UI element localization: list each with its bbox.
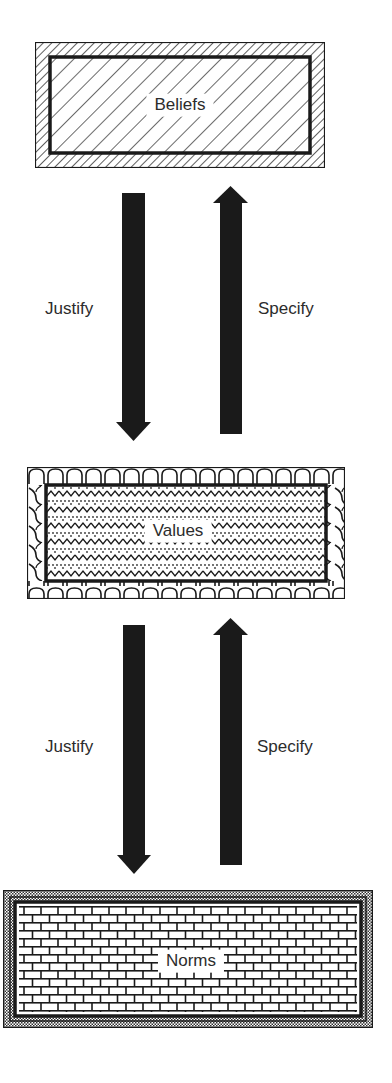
justify-label-1: Justify (45, 300, 93, 317)
values-box: Values (27, 467, 345, 599)
justify-arrow-down-2 (117, 625, 153, 875)
arrow-down-icon (116, 193, 152, 442)
beliefs-box: Beliefs (35, 42, 325, 168)
arrow-up-icon (213, 618, 249, 866)
values-label: Values (145, 520, 212, 543)
norms-box: Norms (3, 890, 373, 1028)
specify-label-1: Specify (258, 300, 314, 317)
justify-arrow-down-1 (116, 193, 152, 442)
beliefs-label: Beliefs (146, 94, 213, 117)
norms-label: Norms (158, 950, 224, 973)
arrow-up-icon (213, 186, 249, 434)
arrow-down-icon (117, 625, 153, 875)
specify-arrow-up-1 (213, 186, 249, 434)
specify-label-2: Specify (257, 738, 313, 755)
specify-arrow-up-2 (213, 618, 249, 866)
justify-label-2: Justify (45, 738, 93, 755)
